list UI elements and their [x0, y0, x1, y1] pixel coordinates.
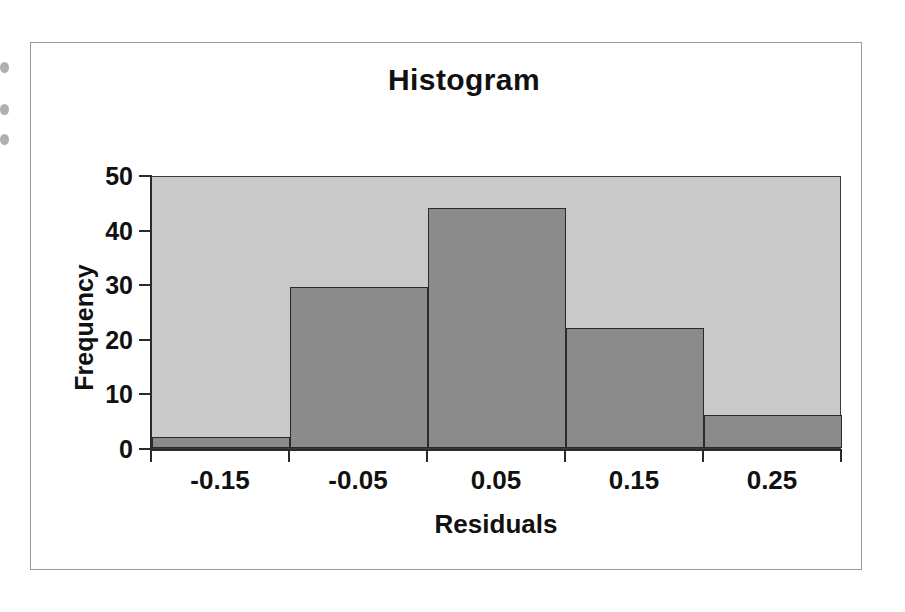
y-axis-tick	[139, 393, 151, 395]
histogram-bar	[290, 287, 428, 448]
x-axis-tick-label: 0.05	[416, 465, 576, 496]
y-axis-tick-label: 50	[75, 162, 133, 191]
y-axis-tick	[139, 339, 151, 341]
x-axis-tick	[150, 449, 152, 462]
histogram-bar	[428, 208, 566, 448]
x-axis-tick	[426, 449, 428, 462]
scan-artifacts	[0, 0, 14, 612]
histogram-bar	[566, 328, 704, 448]
histogram-bar	[704, 415, 842, 448]
y-axis-spine	[150, 175, 152, 451]
x-axis-tick	[288, 449, 290, 462]
histogram-figure: Histogram 01020304050 Frequency -0.15-0.…	[30, 42, 862, 570]
x-axis-tick-label: -0.05	[278, 465, 438, 496]
histogram-bar	[152, 437, 290, 448]
x-axis-title: Residuals	[151, 509, 841, 540]
scan-artifact-mark	[0, 62, 9, 73]
x-axis-tick	[840, 449, 842, 462]
x-axis-tick-label: 0.15	[554, 465, 714, 496]
y-axis-tick	[139, 230, 151, 232]
bars-layer	[152, 177, 840, 448]
x-axis-tick	[702, 449, 704, 462]
y-axis-tick	[139, 175, 151, 177]
x-axis-spine	[150, 449, 842, 451]
x-axis-tick	[564, 449, 566, 462]
plot-area	[151, 176, 841, 449]
x-axis-tick-label: 0.25	[692, 465, 852, 496]
x-axis-tick-label: -0.15	[140, 465, 300, 496]
scan-artifact-mark	[0, 104, 9, 115]
y-axis-title: Frequency	[70, 228, 99, 428]
y-axis-tick	[139, 284, 151, 286]
chart-title: Histogram	[49, 63, 879, 97]
y-axis-tick-label: 0	[75, 435, 133, 464]
scan-artifact-mark	[0, 134, 9, 145]
